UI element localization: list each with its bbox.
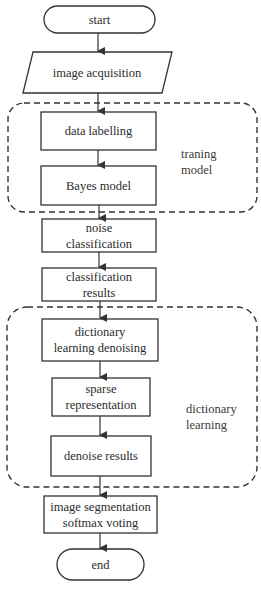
data-labelling-label: data labelling (41, 112, 156, 150)
dictionary-learning-denoising-label: dictionary learning denoising (42, 319, 158, 361)
end-label: end (57, 549, 144, 580)
classification-results-label: classification results (42, 268, 156, 301)
noise-classification-label: noise classification (42, 219, 156, 252)
group-dictionary-learning-label: dictionary learning (186, 401, 237, 433)
start-label: start (44, 6, 155, 33)
image-segmentation-label: image segmentation softmax voting (44, 496, 157, 533)
bayes-model-label: Bayes model (41, 166, 156, 205)
sparse-representation-label: sparse representation (52, 378, 150, 416)
image-acquisition-label: image acquisition (26, 52, 168, 93)
group-training-model-label: traning model (181, 146, 216, 178)
denoise-results-label: denoise results (51, 436, 151, 476)
